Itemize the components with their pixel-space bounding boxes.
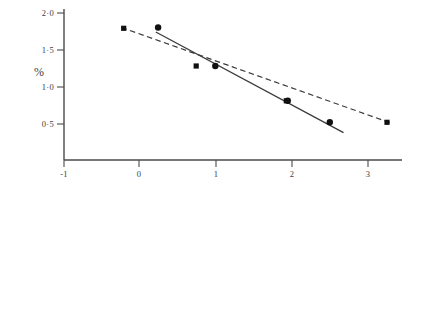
y-axis-label: % xyxy=(34,65,44,79)
scatter-plot: 2·0 1·5 1·0 0·5 % -1 0 1 2 3 xyxy=(0,0,441,180)
y-axis-ticks xyxy=(57,13,64,124)
data-point-circle-3 xyxy=(327,119,333,125)
data-point-circle-1 xyxy=(212,63,218,69)
data-point-square-0 xyxy=(121,26,126,31)
caption-block: Figure 4.7 The dry-season monthly mortal… xyxy=(0,180,441,325)
x-axis-ticks xyxy=(64,160,368,167)
x-tick-label-0: 0 xyxy=(137,169,142,179)
data-point-circle-2 xyxy=(285,98,291,104)
data-point-square-1 xyxy=(194,63,199,68)
x-tick-label-2: 2 xyxy=(290,169,295,179)
y-tick-label-2-0: 2·0 xyxy=(42,8,54,18)
data-point-square-3 xyxy=(384,120,389,125)
x-tick-label-3: 3 xyxy=(366,169,371,179)
plot-svg: 2·0 1·5 1·0 0·5 % -1 0 1 2 3 xyxy=(0,0,441,180)
data-point-circle-0 xyxy=(155,24,161,30)
data-series-circles xyxy=(155,24,333,125)
x-tick-label-minus-1: -1 xyxy=(60,169,68,179)
x-tick-label-1: 1 xyxy=(214,169,219,179)
y-tick-label-1-0: 1·0 xyxy=(42,82,54,92)
x-axis-tick-labels: -1 0 1 2 3 xyxy=(60,169,370,179)
figure-page: 2·0 1·5 1·0 0·5 % -1 0 1 2 3 xyxy=(0,0,441,325)
dashed-fit-line-squares xyxy=(122,28,391,124)
y-tick-label-1-5: 1·5 xyxy=(42,45,54,55)
data-series-squares xyxy=(121,26,390,125)
solid-regression-line-circles xyxy=(156,32,344,133)
y-tick-label-0-5: 0·5 xyxy=(42,119,54,129)
